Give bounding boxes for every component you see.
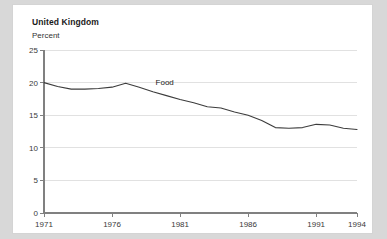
svg-text:1986: 1986 [239, 220, 257, 229]
svg-text:1981: 1981 [171, 220, 189, 229]
x-axis-ticks: 197119761981198619911994 [35, 213, 366, 229]
chart-card: United Kingdom Percent 0510152025 197119… [13, 5, 372, 233]
svg-text:10: 10 [29, 144, 38, 153]
svg-text:25: 25 [29, 46, 38, 55]
svg-text:5: 5 [34, 176, 39, 185]
svg-text:1976: 1976 [103, 220, 121, 229]
svg-text:1971: 1971 [35, 220, 53, 229]
svg-text:15: 15 [29, 111, 38, 120]
svg-text:1994: 1994 [348, 220, 366, 229]
line-chart-plot: 0510152025 197119761981198619911994 Food [13, 5, 372, 233]
data-line-food [44, 83, 357, 130]
series-label-food: Food [156, 78, 174, 87]
y-axis-ticks: 0510152025 [29, 46, 44, 218]
gridlines [44, 50, 357, 180]
svg-text:0: 0 [34, 209, 39, 218]
svg-text:20: 20 [29, 79, 38, 88]
svg-text:1991: 1991 [307, 220, 325, 229]
